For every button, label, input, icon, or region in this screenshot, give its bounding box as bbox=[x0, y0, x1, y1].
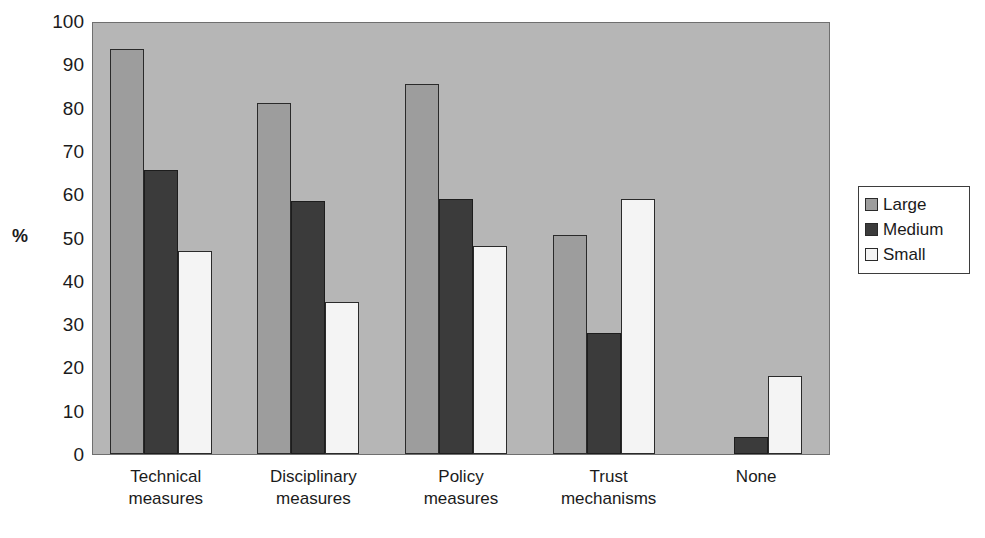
y-axis-tick-50: 50 bbox=[42, 229, 84, 248]
bar-technical-measures-small bbox=[178, 251, 212, 455]
legend-label: Large bbox=[883, 196, 926, 213]
bar-policy-measures-small bbox=[473, 246, 507, 454]
bar-group bbox=[683, 23, 831, 454]
y-axis-tick-80: 80 bbox=[42, 99, 84, 118]
bar-group bbox=[388, 23, 536, 454]
y-axis-tick-10: 10 bbox=[42, 402, 84, 421]
y-axis-tick-70: 70 bbox=[42, 142, 84, 161]
x-axis-label-line: measures bbox=[387, 488, 535, 510]
x-axis-label-line: mechanisms bbox=[535, 488, 683, 510]
bar-none-medium bbox=[734, 437, 768, 454]
y-axis-tick-60: 60 bbox=[42, 185, 84, 204]
bar-trust-mechanisms-large bbox=[553, 235, 587, 454]
bar-group bbox=[536, 23, 684, 454]
x-axis-label-line: Policy bbox=[387, 466, 535, 488]
y-axis-tick-40: 40 bbox=[42, 272, 84, 291]
y-axis-tick-90: 90 bbox=[42, 55, 84, 74]
x-axis-label-none: None bbox=[682, 466, 830, 488]
bar-disciplinary-measures-small bbox=[325, 302, 359, 454]
x-axis-label-line: Technical bbox=[92, 466, 240, 488]
y-axis-tick-labels: 1009080706050403020100 bbox=[38, 0, 84, 538]
x-axis-label-line: Disciplinary bbox=[240, 466, 388, 488]
bar-trust-mechanisms-small bbox=[621, 199, 655, 454]
x-axis-label-line: measures bbox=[92, 488, 240, 510]
legend-label: Small bbox=[883, 246, 926, 263]
bars-container bbox=[93, 23, 829, 454]
x-axis-label-line: Trust bbox=[535, 466, 683, 488]
legend-swatch-icon-medium bbox=[865, 223, 878, 236]
bar-chart-figure: % 1009080706050403020100 Technicalmeasur… bbox=[0, 0, 985, 538]
legend-item-large[interactable]: Large bbox=[865, 192, 963, 217]
bar-disciplinary-measures-large bbox=[257, 103, 291, 454]
bar-trust-mechanisms-medium bbox=[587, 333, 621, 454]
bar-policy-measures-large bbox=[405, 84, 439, 454]
legend: LargeMediumSmall bbox=[858, 186, 970, 274]
bar-group bbox=[241, 23, 389, 454]
legend-item-medium[interactable]: Medium bbox=[865, 217, 963, 242]
x-axis-label-line: None bbox=[682, 466, 830, 488]
bar-group bbox=[93, 23, 241, 454]
x-axis-label-policy-measures: Policymeasures bbox=[387, 466, 535, 510]
x-axis-label-trust-mechanisms: Trustmechanisms bbox=[535, 466, 683, 510]
y-axis-title: % bbox=[12, 226, 28, 247]
y-axis-tick-100: 100 bbox=[42, 12, 84, 31]
bar-disciplinary-measures-medium bbox=[291, 201, 325, 454]
bar-technical-measures-medium bbox=[144, 170, 178, 454]
bar-technical-measures-large bbox=[110, 49, 144, 454]
y-axis-tick-20: 20 bbox=[42, 358, 84, 377]
y-axis-tick-0: 0 bbox=[42, 445, 84, 464]
x-axis-label-disciplinary-measures: Disciplinarymeasures bbox=[240, 466, 388, 510]
bar-policy-measures-medium bbox=[439, 199, 473, 454]
legend-item-small[interactable]: Small bbox=[865, 242, 963, 267]
bar-none-small bbox=[768, 376, 802, 454]
x-axis-label-line: measures bbox=[240, 488, 388, 510]
plot-area bbox=[92, 22, 830, 455]
x-axis-label-technical-measures: Technicalmeasures bbox=[92, 466, 240, 510]
legend-swatch-icon-large bbox=[865, 198, 878, 211]
legend-label: Medium bbox=[883, 221, 943, 238]
y-axis-tick-30: 30 bbox=[42, 315, 84, 334]
legend-swatch-icon-small bbox=[865, 248, 878, 261]
